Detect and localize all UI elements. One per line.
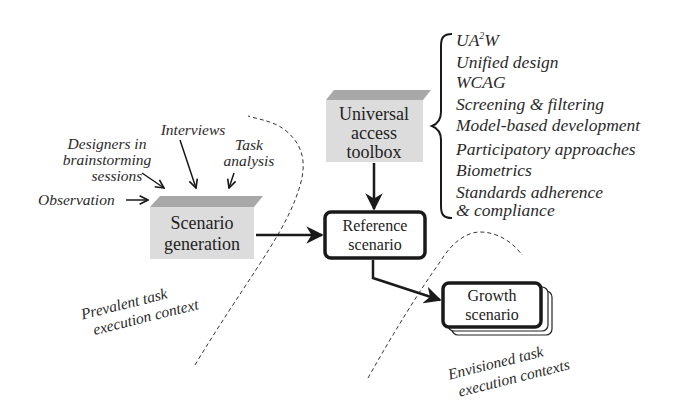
task-analysis-label-2: analysis [224, 152, 275, 169]
toolbox-label-1: Universal [339, 104, 409, 124]
reference-scenario-label-1: Reference [343, 217, 408, 234]
observation-label: Observation [38, 191, 115, 208]
scenario-generation-label-1: Scenario [171, 213, 234, 233]
diagram-canvas: Scenario generation Universal access too… [0, 0, 692, 412]
toolbox-brace [432, 34, 452, 218]
prevalent-context-label: Prevalent task execution context [78, 278, 201, 340]
toolbox-item: Model-based development [455, 115, 641, 135]
arrow-task-analysis [229, 173, 234, 188]
task-analysis-label-1: Task [235, 136, 264, 153]
toolbox-item: Screening & filtering [456, 94, 604, 114]
toolbox-item-ua2w: UA2W [456, 30, 500, 50]
interviews-label: Interviews [160, 121, 226, 138]
arrow-reference-to-growth [373, 260, 440, 300]
toolbox-item: WCAG [456, 72, 506, 92]
toolbox-items-list: UA2W Unified design WCAG Screening & fil… [455, 30, 641, 220]
arrow-interviews [180, 140, 196, 188]
universal-access-toolbox-box: Universal access toolbox [326, 90, 431, 162]
toolbox-label-3: toolbox [346, 142, 401, 162]
toolbox-item: & compliance [456, 200, 555, 220]
toolbox-item: Participatory approaches [455, 139, 636, 159]
designers-label-3: sessions [92, 167, 143, 184]
reference-scenario-box: Reference scenario [325, 212, 425, 258]
designers-label-2: brainstorming [63, 151, 152, 168]
growth-scenario-stack: Growth scenario [443, 283, 552, 335]
growth-scenario-label-2: scenario [465, 306, 518, 323]
envisioned-context-label: Envisioned task execution contexts [445, 337, 571, 401]
designers-label-1: Designers in [67, 135, 147, 152]
toolbox-item: Standards adherence [456, 182, 603, 202]
arrow-designers [142, 173, 164, 188]
scenario-generation-box: Scenario generation [150, 196, 263, 259]
toolbox-item: Unified design [456, 52, 559, 72]
toolbox-label-2: access [351, 123, 397, 143]
toolbox-item: Biometrics [456, 160, 532, 180]
growth-scenario-label-1: Growth [468, 287, 517, 304]
scenario-generation-label-2: generation [164, 234, 240, 254]
reference-scenario-label-2: scenario [348, 236, 401, 253]
